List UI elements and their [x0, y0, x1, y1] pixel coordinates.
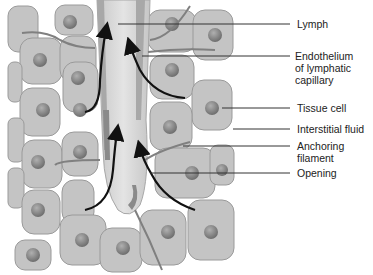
label-interstitial-fluid: Interstitial fluid [297, 123, 364, 135]
lymphatic-capillary-illustration [0, 0, 373, 275]
label-anchoring-filament: Anchoring filament [297, 140, 344, 164]
label-lymph: Lymph [297, 18, 328, 30]
label-endothelium: Endothelium of lymphatic capillary [295, 50, 353, 86]
label-opening: Opening [297, 167, 337, 179]
label-tissue-cell: Tissue cell [297, 102, 346, 114]
